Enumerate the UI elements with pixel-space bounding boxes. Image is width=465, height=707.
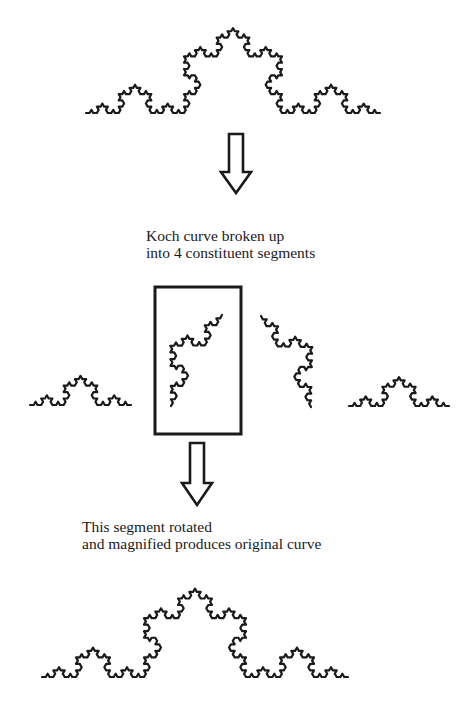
- koch-segment-2-highlighted: [170, 315, 222, 406]
- highlight-frame: [155, 287, 241, 434]
- caption-magnify-line-2: and magnified produces original curve: [82, 535, 321, 552]
- koch-segment-4: [349, 377, 449, 406]
- koch-segment-3: [261, 316, 312, 407]
- koch-segment-1: [30, 376, 131, 405]
- down-arrow-icon: [221, 134, 251, 193]
- caption-split-line-1: Koch curve broken up: [146, 227, 315, 244]
- caption-magnify: This segment rotated and magnified produ…: [82, 518, 321, 552]
- reconstructed-koch-curve: [42, 589, 348, 677]
- original-koch-curve: [86, 28, 380, 113]
- down-arrow-1: [221, 134, 251, 193]
- caption-split: Koch curve broken up into 4 constituent …: [146, 227, 315, 261]
- koch-diagram: [0, 0, 465, 707]
- caption-split-line-2: into 4 constituent segments: [146, 244, 315, 261]
- down-arrow-icon: [182, 443, 212, 505]
- caption-magnify-line-1: This segment rotated: [82, 518, 321, 535]
- down-arrow-2: [182, 443, 212, 505]
